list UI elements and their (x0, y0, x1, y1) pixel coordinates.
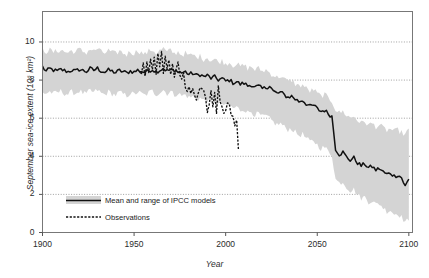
x-tick-label: 2050 (297, 239, 337, 249)
legend-label-models: Mean and range of IPCC models (105, 196, 216, 205)
x-axis-title: Year (0, 259, 429, 269)
x-tick-label: 1900 (23, 239, 63, 249)
chart-figure: September sea-ice extent (10⁶ km²) Year … (0, 0, 429, 278)
legend-label-observations: Observations (105, 213, 150, 222)
y-tick-label: 6 (13, 112, 35, 122)
x-tick-label: 2000 (206, 239, 246, 249)
y-tick-label: 4 (13, 150, 35, 160)
legend-markers (66, 196, 101, 217)
y-tick-label: 2 (13, 188, 35, 198)
x-tick-label: 1950 (114, 239, 154, 249)
y-tick-label: 8 (13, 74, 35, 84)
y-tick-label: 10 (13, 36, 35, 46)
x-tick-label: 2100 (389, 239, 429, 249)
chart-plot-area (0, 0, 429, 278)
model-range-band (43, 47, 409, 222)
y-axis-title: September sea-ice extent (10⁶ km²) (25, 38, 35, 208)
y-tick-label: 0 (13, 227, 35, 237)
